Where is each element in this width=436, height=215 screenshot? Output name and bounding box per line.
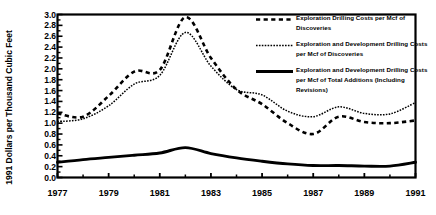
series-line-3 xyxy=(58,148,416,167)
chart-figure: 1991 Dollars per Thousand Cubic Feet 0.0… xyxy=(0,0,436,215)
legend-label: Exploration and Development Drilling Cos… xyxy=(296,65,434,94)
legend-item: Exploration and Development Drilling Cos… xyxy=(256,39,434,58)
chart-legend: Exploration Drilling Costs per Mcf of Di… xyxy=(256,13,434,101)
legend-line-sample xyxy=(256,43,293,48)
legend-label: Exploration Drilling Costs per Mcf of Di… xyxy=(296,13,434,32)
legend-line-sample xyxy=(256,69,293,74)
legend-item: Exploration Drilling Costs per Mcf of Di… xyxy=(256,13,434,32)
legend-line-sample xyxy=(256,17,293,22)
legend-item: Exploration and Development Drilling Cos… xyxy=(256,65,434,94)
legend-label: Exploration and Development Drilling Cos… xyxy=(296,39,434,58)
